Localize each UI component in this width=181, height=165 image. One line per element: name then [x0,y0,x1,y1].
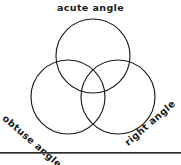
label-acute-angle: acute angle [0,3,181,13]
bottom-divider [0,152,181,154]
venn-diagram: acute angle obtuse angle right angle [0,0,181,165]
obtuse-angle-circle [31,60,105,134]
acute-angle-circle [56,19,130,93]
